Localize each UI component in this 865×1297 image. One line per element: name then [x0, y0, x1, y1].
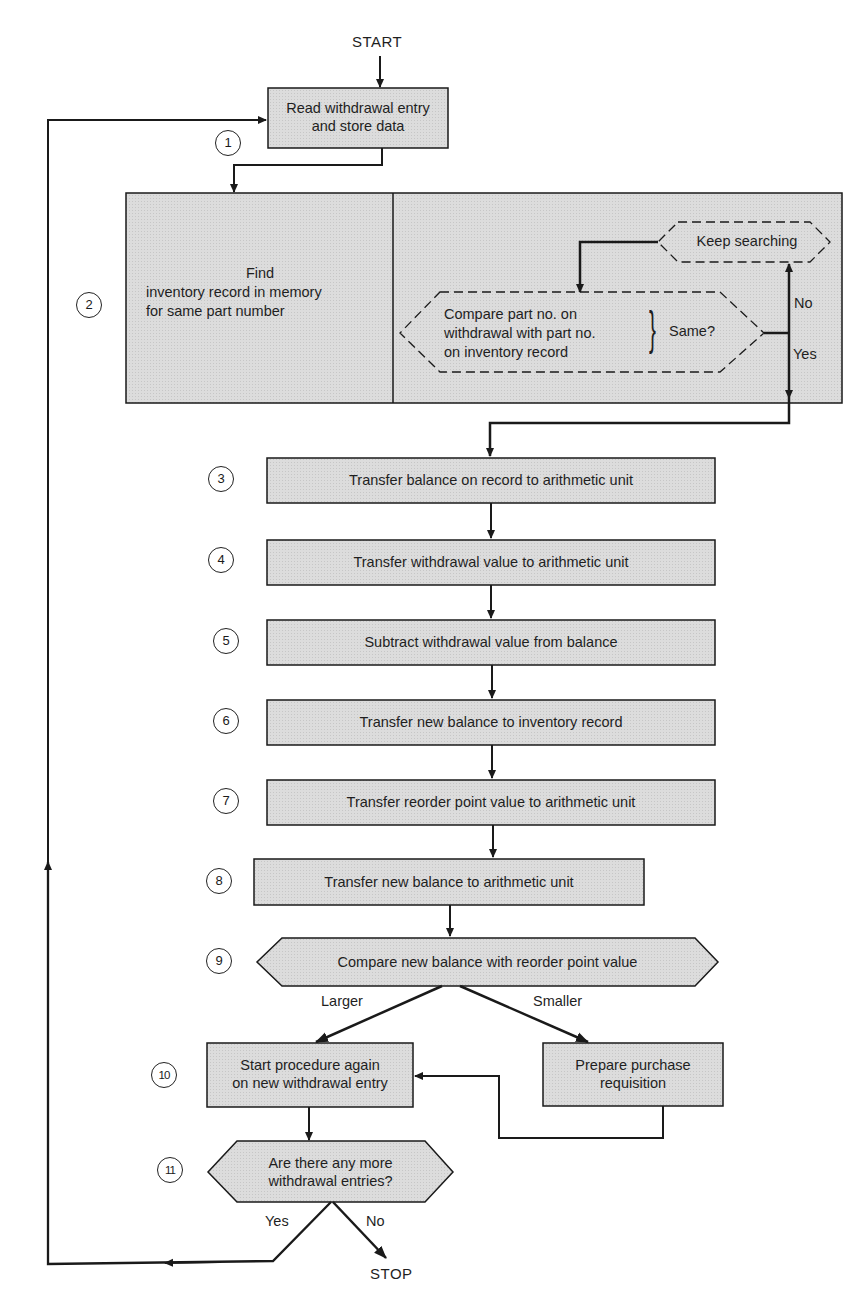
connector-2-3: [490, 398, 789, 456]
step-number-7: 7: [213, 788, 239, 814]
step-11-label: Are there any more withdrawal entries?: [208, 1154, 453, 1190]
same-label: Same?: [669, 323, 715, 339]
step-number-4: 4: [208, 547, 234, 573]
step-number-11: 11: [157, 1157, 183, 1183]
step-number-9: 9: [206, 948, 232, 974]
no-label: No: [794, 295, 813, 311]
yes-branch-label: Yes: [265, 1213, 289, 1229]
step-number-3: 3: [208, 466, 234, 492]
step-number-5: 5: [213, 628, 239, 654]
step-1-label: Read withdrawal entry and store data: [268, 99, 448, 135]
step-10-line-2: on new withdrawal entry: [207, 1074, 413, 1092]
keep-searching-label: Keep searching: [672, 232, 822, 250]
step-number-8: 8: [206, 868, 232, 894]
step-8-label: Transfer new balance to arithmetic unit: [254, 873, 644, 891]
no-branch-label: No: [366, 1213, 385, 1229]
step-7-label: Transfer reorder point value to arithmet…: [267, 793, 715, 811]
step-1-line-1: Read withdrawal entry: [268, 99, 448, 117]
no-stop-arrow: [333, 1202, 386, 1258]
yes-loop-direction-arrow: [165, 1262, 220, 1263]
step-number-1: 1: [215, 130, 241, 156]
step-10-label: Start procedure again on new withdrawal …: [207, 1056, 413, 1092]
step-2-label: Find inventory record in memory for same…: [140, 264, 380, 321]
compare-line-1: Compare part no. on: [444, 305, 644, 324]
step-2-line-1: Find: [140, 264, 380, 283]
purchase-line-2: requisition: [543, 1074, 723, 1092]
step-1-line-2: and store data: [268, 117, 448, 135]
smaller-label: Smaller: [533, 993, 582, 1009]
step-4-label: Transfer withdrawal value to arithmetic …: [267, 553, 715, 571]
compare-line-3: on inventory record: [444, 343, 644, 362]
connector-1-2: [234, 148, 382, 192]
step-5-label: Subtract withdrawal value from balance: [267, 633, 715, 651]
step-3-label: Transfer balance on record to arithmetic…: [267, 471, 715, 489]
purchase-requisition-label: Prepare purchase requisition: [543, 1056, 723, 1092]
brace-icon: }: [649, 298, 656, 358]
step-number-10: 10: [151, 1062, 177, 1088]
step-9-label: Compare new balance with reorder point v…: [257, 953, 718, 971]
larger-label: Larger: [321, 993, 363, 1009]
step-11-line-1: Are there any more: [208, 1154, 453, 1172]
step-2-line-2: inventory record in memory: [140, 283, 380, 302]
compare-part-label: Compare part no. on withdrawal with part…: [444, 305, 644, 362]
stop-label: STOP: [370, 1265, 413, 1282]
step-11-line-2: withdrawal entries?: [208, 1172, 453, 1190]
step-10-line-1: Start procedure again: [207, 1056, 413, 1074]
yes-label: Yes: [793, 346, 817, 362]
compare-line-2: withdrawal with part no.: [444, 324, 644, 343]
step-number-2: 2: [76, 292, 102, 318]
step-6-label: Transfer new balance to inventory record: [267, 713, 715, 731]
start-label: START: [352, 33, 402, 50]
step-number-6: 6: [213, 708, 239, 734]
step-2-line-3: for same part number: [140, 302, 380, 321]
purchase-line-1: Prepare purchase: [543, 1056, 723, 1074]
